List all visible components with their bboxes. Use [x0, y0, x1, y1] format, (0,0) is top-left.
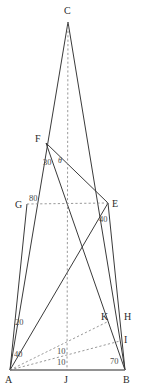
vertex-label-G: G [15, 199, 22, 210]
angle-label-upper-at-A: 20 [15, 317, 24, 327]
segment-C-J [67, 22, 68, 370]
segment-C-B [68, 22, 125, 370]
angle-label-at-J-lower: 10 [57, 357, 66, 367]
angle-labels-group: 30 θ 80 40 20 40 10 10 70 [14, 156, 119, 367]
vertex-label-J: J [64, 374, 68, 385]
vertex-label-B: B [123, 374, 130, 385]
angle-label-lower-at-A: 40 [14, 349, 23, 359]
angle-label-at-J-upper: 10 [57, 346, 66, 356]
vertex-label-C: C [64, 5, 71, 16]
geometry-canvas: C F G E K H I A J B 30 θ 80 40 20 40 10 … [0, 0, 146, 390]
angle-label-theta-at-F: θ [58, 156, 62, 165]
angle-label-at-B: 70 [110, 356, 119, 366]
segment-F-E [46, 143, 108, 203]
segment-G-E [27, 203, 108, 204]
vertex-label-F: F [35, 133, 41, 144]
vertex-label-A: A [5, 374, 13, 385]
angle-label-below-E: 40 [99, 214, 108, 224]
vertex-label-H: H [124, 311, 131, 322]
geometry-diagram: C F G E K H I A J B 30 θ 80 40 20 40 10 … [0, 0, 146, 390]
angle-label-at-F: 30 [43, 157, 52, 167]
vertex-label-I: I [124, 334, 127, 345]
angle-label-at-G: 80 [29, 193, 38, 203]
vertex-label-K: K [101, 311, 109, 322]
vertex-label-E: E [112, 198, 118, 209]
